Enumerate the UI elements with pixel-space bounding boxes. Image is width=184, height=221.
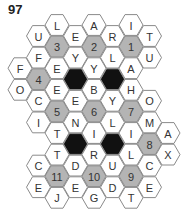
cell-letter: C <box>35 95 43 107</box>
cell-letter: E <box>35 182 42 194</box>
cell-letter: R <box>90 149 98 161</box>
cell-letter: A <box>90 20 98 32</box>
cell-number: 2 <box>91 41 97 53</box>
cell-letter: I <box>129 20 132 32</box>
cell-letter: G <box>90 192 99 204</box>
cell-number: 10 <box>88 171 100 183</box>
cell-number: 5 <box>54 106 60 118</box>
cell-letter: O <box>145 95 154 107</box>
cell-letter: E <box>53 63 60 75</box>
hex-board: FOUF4CICEL3EE5TT11JEYENDEA2YB6IR10GRLYLU… <box>0 0 184 221</box>
cell-letter: T <box>54 128 61 140</box>
cell-letter: T <box>54 149 61 161</box>
cell-number: 3 <box>54 41 60 53</box>
cell-letter: T <box>128 192 135 204</box>
cell-letter: I <box>129 128 132 140</box>
cell-number: 8 <box>146 139 152 151</box>
cell-letter: A <box>164 128 172 140</box>
cell-number: 11 <box>51 171 62 183</box>
cell-letter: F <box>17 63 24 75</box>
cell-letter: R <box>109 31 117 43</box>
cell-letter: T <box>146 31 153 43</box>
cell-letter: U <box>146 52 154 64</box>
cell-letter: U <box>35 31 43 43</box>
cell-letter: E <box>72 31 79 43</box>
cell-letter: X <box>164 149 172 161</box>
cell-letter: I <box>92 128 95 140</box>
cell-letter: N <box>72 117 80 129</box>
cell-number: 4 <box>35 74 41 86</box>
cell-letter: Y <box>72 52 80 64</box>
cell-letter: F <box>35 52 42 64</box>
cell-letter: C <box>146 160 154 172</box>
cell-number: 1 <box>128 41 134 53</box>
cell-letter: E <box>72 182 79 194</box>
cell-letter: I <box>37 117 40 129</box>
cell-letter: D <box>109 182 117 194</box>
cell-letter: M <box>145 117 154 129</box>
cell-number: 6 <box>91 106 97 118</box>
cell-letter: J <box>54 192 60 204</box>
cell-letter: E <box>146 182 153 194</box>
cell-letter: C <box>35 160 43 172</box>
cell-letter: L <box>128 149 134 161</box>
cell-number: 9 <box>128 171 134 183</box>
cell-number: 7 <box>128 106 134 118</box>
cell-letter: O <box>16 84 25 96</box>
cell-letter: L <box>109 117 115 129</box>
cell-letter: A <box>127 63 135 75</box>
cell-letter: B <box>90 84 97 96</box>
cell-letter: L <box>54 20 60 32</box>
cell-letter: H <box>127 84 135 96</box>
cell-letter: E <box>53 84 60 96</box>
cell-letter: U <box>109 160 117 172</box>
cell-letter: L <box>109 52 115 64</box>
cell-letter: D <box>72 160 80 172</box>
cell-letter: E <box>72 95 79 107</box>
cell-letter: Y <box>90 63 98 75</box>
cell-letter: Y <box>109 95 117 107</box>
